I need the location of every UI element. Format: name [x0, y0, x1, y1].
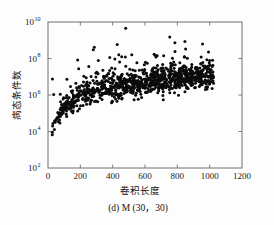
data-point	[80, 84, 83, 87]
figure-panel: 0200400600800100012001021041061081010 病态…	[0, 0, 274, 225]
data-point	[184, 47, 187, 50]
data-point	[162, 54, 165, 57]
data-point	[162, 90, 165, 93]
data-point	[209, 80, 212, 83]
data-point	[139, 93, 142, 96]
data-point	[77, 95, 80, 98]
data-point	[85, 81, 88, 84]
data-point	[156, 91, 159, 94]
data-point	[80, 89, 83, 92]
data-point	[124, 65, 127, 68]
data-point	[77, 98, 80, 101]
data-point	[159, 73, 162, 76]
data-point	[132, 86, 135, 89]
data-point	[200, 62, 203, 65]
data-point	[204, 88, 207, 91]
data-point	[169, 79, 172, 82]
y-tick-label-exponent: 10	[35, 16, 41, 22]
data-point	[211, 59, 214, 62]
data-point	[208, 63, 211, 66]
data-point	[204, 75, 207, 78]
data-point	[183, 79, 186, 82]
data-point	[126, 89, 129, 92]
data-point	[179, 67, 182, 70]
data-point	[171, 57, 174, 60]
data-point	[201, 42, 204, 45]
data-point	[198, 70, 201, 73]
data-point	[75, 104, 78, 107]
y-tick-label-exponent: 2	[38, 162, 41, 168]
data-point	[161, 66, 164, 69]
data-point	[135, 61, 138, 64]
data-point	[125, 81, 128, 84]
data-point	[120, 55, 123, 58]
data-point	[101, 69, 104, 72]
data-point	[76, 109, 79, 112]
data-point	[89, 102, 92, 105]
data-point	[155, 66, 158, 69]
x-tick-label: 800	[171, 171, 185, 181]
data-point	[107, 80, 110, 83]
data-point	[97, 91, 100, 94]
data-point	[119, 79, 122, 82]
data-point	[140, 85, 143, 88]
y-tick-label-exponent: 6	[38, 89, 41, 95]
data-point	[123, 77, 126, 80]
data-point	[206, 67, 209, 70]
data-point	[69, 85, 72, 88]
data-point	[149, 82, 152, 85]
data-point	[154, 54, 157, 57]
data-point	[158, 85, 161, 88]
data-point	[99, 96, 102, 99]
data-point	[60, 106, 63, 109]
data-point	[188, 81, 191, 84]
data-point	[200, 56, 203, 59]
data-point	[167, 70, 170, 73]
data-point	[161, 94, 164, 97]
y-tick-label: 10	[28, 163, 38, 173]
data-point	[190, 63, 193, 66]
data-point	[90, 75, 93, 78]
data-point	[178, 61, 181, 64]
data-point	[117, 77, 120, 80]
data-point	[191, 83, 194, 86]
data-point	[144, 61, 147, 64]
data-point	[92, 48, 95, 51]
data-point	[182, 64, 185, 67]
data-point	[137, 98, 140, 101]
data-point	[135, 74, 138, 77]
data-point	[102, 75, 105, 78]
data-point	[118, 61, 121, 64]
data-point	[88, 88, 91, 91]
data-point	[51, 125, 54, 128]
data-point	[178, 77, 181, 80]
data-point	[194, 82, 197, 85]
data-point	[120, 86, 123, 89]
data-point	[134, 82, 137, 85]
data-point	[67, 97, 70, 100]
data-point	[94, 76, 97, 79]
data-point	[190, 66, 193, 69]
data-point	[169, 64, 172, 67]
data-point	[194, 66, 197, 69]
data-point	[126, 78, 129, 81]
data-point	[170, 70, 173, 73]
data-point	[211, 87, 214, 90]
data-point	[66, 99, 69, 102]
data-point	[72, 104, 75, 107]
y-tick-label-exponent: 4	[38, 125, 41, 131]
data-point	[126, 72, 129, 75]
data-point	[65, 78, 68, 81]
data-point	[206, 80, 209, 83]
data-point	[69, 101, 72, 104]
data-point	[82, 75, 85, 78]
data-point	[174, 82, 177, 85]
y-tick-label: 10	[28, 90, 38, 100]
data-point	[72, 97, 75, 100]
data-point	[116, 100, 119, 103]
data-point	[58, 111, 61, 114]
x-tick-label: 0	[46, 171, 51, 181]
data-point	[174, 63, 177, 66]
data-point	[172, 73, 175, 76]
data-point	[134, 69, 137, 72]
